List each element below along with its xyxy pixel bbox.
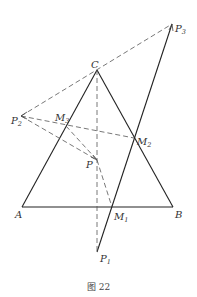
dashed-M3P [66,126,97,160]
label-C: C [91,59,99,70]
segment-P1P3 [97,24,172,252]
label-P1: P1 [99,253,111,266]
figure-caption: 图 22 [87,282,110,292]
geometry-figure: C A B P P1 P2 P3 M1 M2 M3 图 22 [0,0,197,297]
label-P: P [85,159,93,170]
dashed-PM1 [97,160,112,207]
label-B: B [174,209,182,220]
label-A: A [14,209,22,220]
dashed-P2M2 [21,116,134,138]
label-P3: P3 [174,23,186,36]
label-M2: M2 [136,136,151,149]
label-P2: P2 [10,115,22,128]
dashed-P2P3 [21,24,172,116]
segment-BC [97,70,173,207]
label-M1: M1 [113,211,128,224]
